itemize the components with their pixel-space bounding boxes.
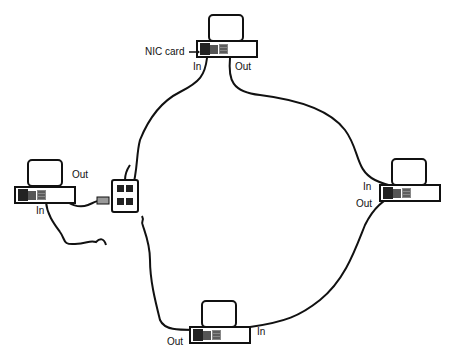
computer-bottom: [190, 301, 250, 343]
jack-port-3: [117, 198, 124, 205]
top-out-label: Out: [235, 62, 251, 72]
jack-port-1: [117, 185, 124, 192]
computer-left: [15, 160, 75, 203]
cable-top-in-to-jack: [132, 58, 207, 190]
top-in-label: In: [193, 62, 201, 72]
right-out-label: Out: [356, 199, 372, 209]
cable-bottom-out-to-jack: [142, 216, 200, 330]
jack-port-4: [126, 198, 133, 205]
cable-left-in-loose: [46, 202, 106, 245]
wall-jack: [112, 180, 138, 212]
rj45-plug: [97, 197, 109, 204]
left-out-label: Out: [72, 170, 88, 180]
right-in-label: In: [363, 182, 371, 192]
left-in-label: In: [36, 206, 44, 216]
cables: [46, 58, 400, 330]
bottom-in-label: In: [257, 327, 265, 337]
computer-top: [197, 15, 257, 57]
nic-card-label: NIC card: [145, 47, 184, 57]
cable-right-out-to-bottom: [225, 192, 398, 330]
computer-right: [380, 159, 440, 201]
cable-top-out-to-right: [230, 58, 400, 188]
jack-port-2: [126, 185, 133, 192]
bottom-out-label: Out: [167, 337, 183, 347]
network-diagram: [0, 0, 456, 355]
